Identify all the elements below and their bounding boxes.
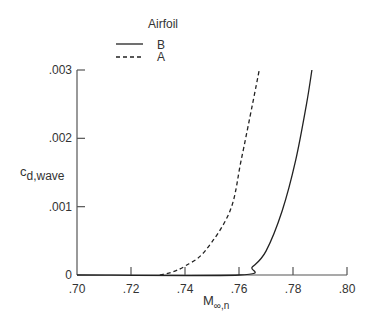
x-axis-label: M∞,n <box>203 293 229 311</box>
x-tick-label: .80 <box>339 282 356 296</box>
x-axis-label-main: M <box>203 293 214 308</box>
x-tick-label: .76 <box>231 282 248 296</box>
series-line-a <box>160 70 259 275</box>
legend: Airfoil B A <box>116 17 178 64</box>
y-axis-label-sub: d,wave <box>27 169 65 183</box>
x-tick-label: .78 <box>285 282 302 296</box>
legend-label-a: A <box>157 50 165 64</box>
x-tick-label: .72 <box>123 282 140 296</box>
y-tick-label: .001 <box>49 200 73 214</box>
y-tick-label: 0 <box>65 268 72 282</box>
y-tick-label: .003 <box>49 63 73 77</box>
series-line-b <box>77 70 312 276</box>
curves <box>77 70 312 276</box>
x-axis-label-sub: ∞,n <box>214 300 229 311</box>
y-axis-label: cd,wave <box>20 164 65 183</box>
x-ticks: .70.72.74.76.78.80 <box>69 267 356 296</box>
chart: Airfoil B A .70.72.74.76.78.80 0.001.002… <box>0 0 373 323</box>
x-tick-label: .74 <box>177 282 194 296</box>
legend-title: Airfoil <box>148 17 178 31</box>
y-tick-label: .002 <box>49 131 73 145</box>
x-tick-label: .70 <box>69 282 86 296</box>
